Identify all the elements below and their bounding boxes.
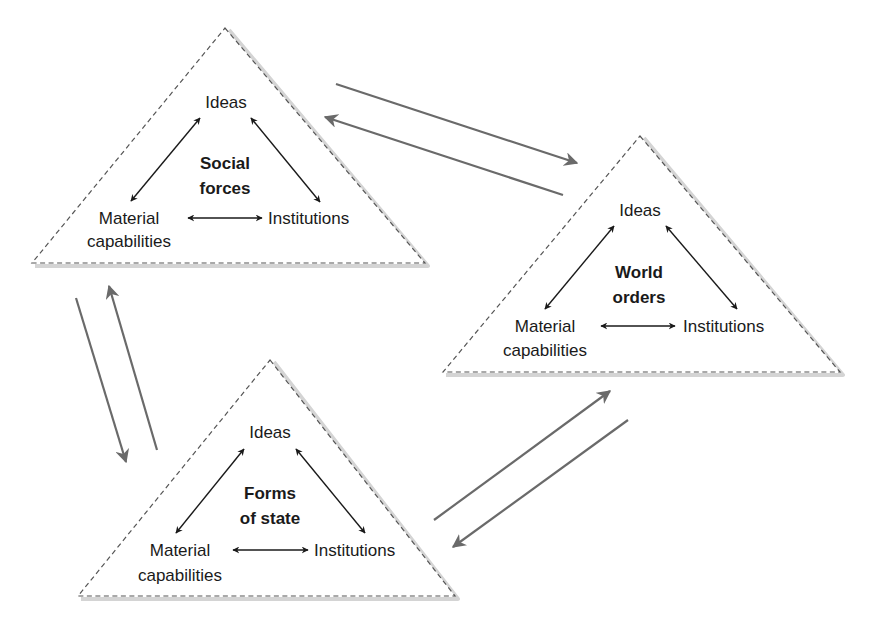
- triangle-border: [32, 28, 425, 263]
- node-institutions: Institutions: [683, 317, 764, 336]
- node-material-line2: capabilities: [138, 566, 222, 585]
- arrow-social-forces-to-world-orders: [336, 84, 577, 163]
- triangle-title-line1: Forms: [244, 484, 296, 503]
- node-ideas: Ideas: [205, 93, 247, 112]
- social-forces-diagram: Ideas Social forces Material capabilitie…: [0, 0, 871, 629]
- node-material-line2: capabilities: [87, 232, 171, 251]
- triangle-title-line1: Social: [200, 154, 250, 173]
- arrow-social-forces-to-forms-of-state: [76, 298, 126, 462]
- node-institutions: Institutions: [314, 541, 395, 560]
- triangle-forms-of-state: Ideas Forms of state Material capabiliti…: [78, 360, 458, 599]
- triangle-border: [78, 360, 455, 596]
- triangle-title-line2: forces: [199, 179, 250, 198]
- node-material-line1: Material: [515, 317, 575, 336]
- triangle-world-orders: Ideas World orders Material capabilities…: [443, 136, 843, 375]
- node-ideas: Ideas: [249, 423, 291, 442]
- triangle-title-line2: of state: [240, 509, 300, 528]
- triangle-social-forces: Ideas Social forces Material capabilitie…: [32, 28, 428, 266]
- node-institutions: Institutions: [268, 209, 349, 228]
- node-material-line1: Material: [150, 541, 210, 560]
- node-ideas: Ideas: [619, 201, 661, 220]
- arrow-forms-of-state-to-world-orders: [434, 391, 610, 520]
- node-material-line2: capabilities: [503, 341, 587, 360]
- triangle-border: [443, 136, 840, 372]
- arrow-forms-of-state-to-social-forces: [109, 286, 157, 450]
- triangle-title-line1: World: [615, 263, 663, 282]
- node-material-line1: Material: [99, 209, 159, 228]
- arrow-world-orders-to-forms-of-state: [453, 420, 628, 547]
- triangle-title-line2: orders: [613, 288, 666, 307]
